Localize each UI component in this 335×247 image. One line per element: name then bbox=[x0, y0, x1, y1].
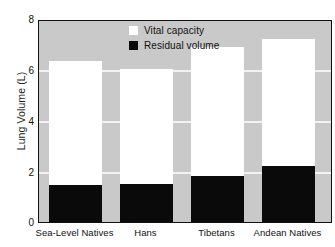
y-tick-4: 4 bbox=[18, 117, 34, 127]
bar-group-sea-level-natives[interactable] bbox=[49, 21, 102, 222]
white-square-icon bbox=[129, 26, 138, 35]
legend-label-vital-capacity: Vital capacity bbox=[144, 25, 204, 36]
bar-residual-volume[interactable] bbox=[191, 176, 244, 222]
bar-residual-volume[interactable] bbox=[49, 185, 102, 222]
bar-vital-capacity[interactable] bbox=[49, 61, 102, 185]
bar-vital-capacity[interactable] bbox=[191, 47, 244, 176]
black-square-icon bbox=[129, 41, 138, 50]
bar-residual-volume[interactable] bbox=[120, 184, 173, 222]
y-tick-6: 6 bbox=[18, 66, 34, 76]
plot-area: Vital capacity Residual volume bbox=[38, 20, 332, 223]
y-axis-tick-labels: 8 6 4 2 0 bbox=[18, 0, 34, 247]
x-axis-tick-labels: Sea-Level Natives Hans Tibetans Andean N… bbox=[38, 227, 332, 245]
y-tick-2: 2 bbox=[18, 168, 34, 178]
bar-vital-capacity[interactable] bbox=[262, 39, 315, 166]
legend-item-vital-capacity: Vital capacity bbox=[129, 23, 219, 37]
chart-legend: Vital capacity Residual volume bbox=[129, 23, 219, 53]
bar-residual-volume[interactable] bbox=[262, 166, 315, 222]
bar-group-andean-natives[interactable] bbox=[262, 21, 315, 222]
lung-volume-chart: Lung Volume (L) 8 6 4 2 0 bbox=[0, 0, 335, 247]
x-tick-andean-natives: Andean Natives bbox=[235, 227, 335, 238]
legend-item-residual-volume: Residual volume bbox=[129, 38, 219, 52]
bar-vital-capacity[interactable] bbox=[120, 69, 173, 184]
y-tick-8: 8 bbox=[18, 15, 34, 25]
legend-label-residual-volume: Residual volume bbox=[144, 40, 219, 51]
